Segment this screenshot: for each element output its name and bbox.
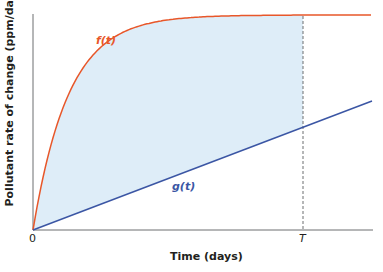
- g-label: g(t): [172, 180, 195, 193]
- x-tick-0: 0: [29, 232, 36, 245]
- chart-plot: [0, 0, 383, 272]
- y-axis-label: Pollutant rate of change (ppm/day): [3, 37, 16, 207]
- f-label: f(t): [96, 34, 116, 47]
- x-tick-t: T: [299, 232, 306, 245]
- x-axis-label: Time (days): [170, 250, 243, 263]
- shaded-region: [33, 15, 303, 230]
